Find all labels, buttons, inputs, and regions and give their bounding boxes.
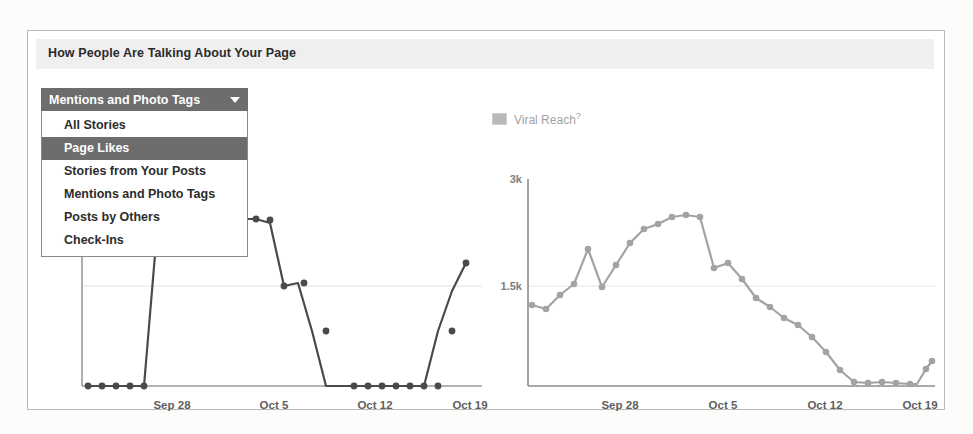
xtick-1: Oct 5 (709, 399, 738, 411)
viral-reach-chart: Viral Reach? (480, 111, 935, 401)
chevron-down-icon (230, 97, 240, 103)
y-axis-ticks: 3k 1.5k (501, 173, 523, 292)
page-title: How People Are Talking About Your Page (48, 46, 296, 60)
dropdown-selected-label: Mentions and Photo Tags (49, 93, 200, 107)
xtick-2: Oct 12 (807, 399, 842, 411)
xtick-2: Oct 12 (357, 399, 392, 411)
dropdown-item-all-stories[interactable]: All Stories (42, 114, 247, 137)
xtick-1: Oct 5 (260, 399, 289, 411)
viral-reach-line (532, 215, 932, 384)
ytick-1-5k: 1.5k (501, 280, 523, 292)
dropdown-item-page-likes[interactable]: Page Likes (42, 137, 247, 160)
dropdown-item-mentions-and-photo-tags[interactable]: Mentions and Photo Tags (42, 183, 247, 206)
story-type-dropdown[interactable]: Mentions and Photo Tags All Stories Page… (41, 88, 248, 257)
viral-reach-points (529, 212, 936, 388)
xtick-3: Oct 19 (902, 399, 937, 411)
dropdown-item-stories-from-your-posts[interactable]: Stories from Your Posts (42, 160, 247, 183)
viral-reach-series (529, 212, 936, 388)
dropdown-item-posts-by-others[interactable]: Posts by Others (42, 206, 247, 229)
x-axis-ticks: Sep 28 Oct 5 Oct 12 Oct 19 (601, 399, 937, 411)
dropdown-item-check-ins[interactable]: Check-Ins (42, 229, 247, 252)
section-header: How People Are Talking About Your Page (36, 39, 934, 69)
viral-reach-plot: 3k 1.5k Sep 28 Oct 5 Oct 12 Oct 19 (480, 111, 935, 401)
ytick-3k: 3k (510, 173, 523, 185)
insights-card: How People Are Talking About Your Page (27, 30, 945, 410)
dropdown-menu: All Stories Page Likes Stories from Your… (41, 111, 248, 257)
dropdown-toggle-button[interactable]: Mentions and Photo Tags (41, 88, 248, 111)
x-axis-ticks: Sep 28 Oct 5 Oct 12 Oct 19 (153, 399, 487, 411)
xtick-0: Sep 28 (601, 399, 639, 411)
xtick-0: Sep 28 (153, 399, 191, 411)
